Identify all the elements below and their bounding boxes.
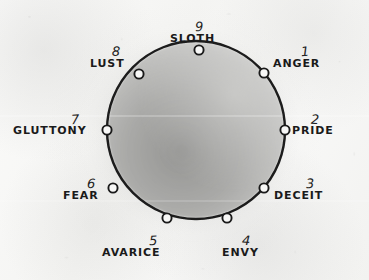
point-label-text: PRIDE [292, 124, 334, 137]
point-label-envy[interactable]: ENVY [222, 246, 259, 259]
diagram-canvas: 1ANGER2PRIDE3DECEIT4ENVY5AVARICE6FEAR7GL… [0, 0, 369, 280]
enneagram-point-3[interactable] [259, 183, 268, 192]
enneagram-point-5[interactable] [162, 213, 171, 222]
point-label-text: LUST [90, 57, 125, 70]
enneagram-point-6[interactable] [108, 183, 117, 192]
point-label-text: GLUTTONY [13, 124, 87, 137]
point-label-sloth[interactable]: SLOTH [170, 32, 215, 45]
point-label-text: DECEIT [274, 189, 323, 202]
enneagram-point-2[interactable] [280, 125, 289, 134]
point-label-text: FEAR [63, 189, 99, 202]
point-label-anger[interactable]: ANGER [273, 57, 320, 70]
point-label-text: AVARICE [102, 246, 161, 259]
enneagram-point-1[interactable] [259, 68, 268, 77]
point-label-text: ANGER [273, 57, 320, 70]
point-label-lust[interactable]: LUST [90, 57, 125, 70]
point-label-deceit[interactable]: DECEIT [274, 189, 323, 202]
point-label-pride[interactable]: PRIDE [292, 124, 334, 137]
enneagram-point-4[interactable] [222, 213, 231, 222]
circle-interior-highlight [108, 42, 284, 218]
point-label-gluttony[interactable]: GLUTTONY [13, 124, 87, 137]
enneagram-point-9[interactable] [194, 45, 203, 54]
point-label-text: SLOTH [170, 32, 215, 45]
point-label-avarice[interactable]: AVARICE [102, 246, 161, 259]
enneagram-point-7[interactable] [102, 125, 111, 134]
point-label-fear[interactable]: FEAR [63, 189, 99, 202]
enneagram-point-8[interactable] [134, 69, 143, 78]
point-label-text: ENVY [222, 246, 259, 259]
